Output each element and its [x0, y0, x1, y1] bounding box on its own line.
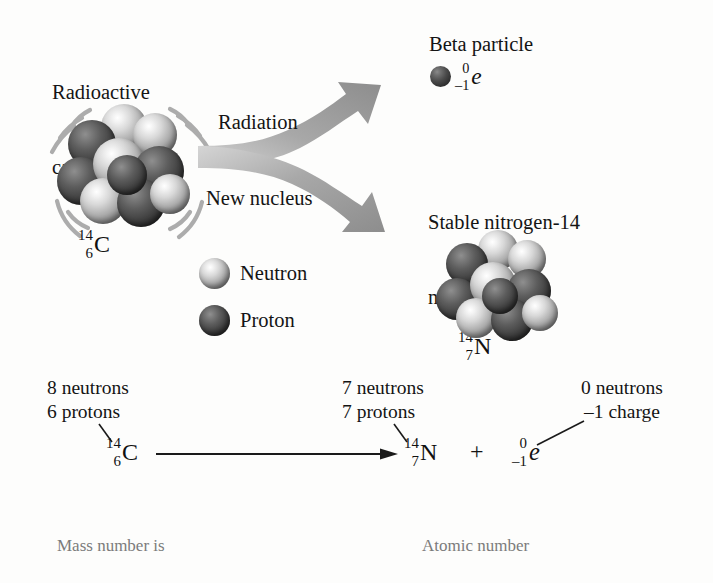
proton-sphere: [107, 155, 147, 195]
carbon-atomic-number-eq: 6: [113, 454, 120, 469]
beta-mass-number-eq: 0: [519, 436, 526, 451]
left-caption-line1: Mass number is: [57, 535, 165, 558]
nitrogen-14-nuclide-equation: 14 7 N: [404, 436, 437, 469]
reaction-arrow: [156, 443, 398, 465]
beta-charge-number-eq: –1: [512, 454, 527, 469]
beta-mass-number-top: 0: [462, 61, 469, 75]
diagram-canvas: Radioactive carbon nucleus 14 6 C: [0, 0, 713, 583]
neutron-sphere: [150, 174, 190, 214]
beta-particle-label: Beta particle: [429, 32, 533, 57]
beta-particle-nuclide-equation: 0 –1 e: [512, 436, 540, 469]
neutron-sphere: [522, 295, 558, 331]
carbon-14-nuclide-top: 14 6 C: [78, 228, 110, 261]
carbon-atomic-number-top: 6: [85, 246, 92, 261]
legend-label-proton: Proton: [240, 308, 295, 333]
nitrogen-atomic-number-eq: 7: [411, 454, 418, 469]
beta-symbol-eq: e: [528, 438, 540, 466]
carbon-14-nuclide-equation: 14 6 C: [106, 436, 138, 469]
reactant-neutron-count: 8 neutrons: [47, 376, 129, 400]
stable-nitrogen-nucleus: [434, 228, 562, 340]
carbon-symbol-top: C: [94, 231, 110, 258]
proton-sphere: [482, 278, 518, 314]
beta-symbol-top: e: [470, 63, 481, 90]
carbon-mass-number-top: 14: [78, 228, 93, 243]
decay-fork-arrows: [196, 80, 466, 240]
nitrogen-mass-number-eq: 14: [404, 436, 419, 451]
beta-charge-number-top: –1: [455, 78, 469, 92]
reactant-proton-count: 6 protons: [47, 400, 120, 424]
beta-particle-sphere: [430, 66, 451, 87]
carbon-mass-number-eq: 14: [106, 436, 121, 451]
legend-label-neutron: Neutron: [240, 261, 307, 286]
product-neutron-count: 7 neutrons: [342, 376, 424, 400]
beta-particle-nuclide-top: 0 –1 e: [455, 61, 482, 92]
product-proton-count: 7 protons: [342, 400, 415, 424]
beta-charge-count: –1 charge: [584, 400, 660, 424]
beta-neutron-count: 0 neutrons: [581, 376, 663, 400]
equation-plus-sign: +: [470, 437, 484, 466]
left-caption: Mass number is the same for both nuclei: [57, 489, 165, 583]
nitrogen-atomic-number-top: 7: [465, 348, 472, 363]
proton-swatch-icon: [199, 305, 230, 336]
neutron-swatch-icon: [199, 258, 230, 289]
nitrogen-symbol-eq: N: [420, 439, 437, 466]
right-caption-line1: Atomic number: [422, 535, 550, 558]
radioactive-carbon-nucleus: [55, 100, 205, 230]
radiation-label: Radiation: [218, 110, 298, 135]
right-caption: Atomic number of the new nucleus increas…: [422, 489, 550, 583]
new-nucleus-label: New nucleus: [206, 186, 312, 211]
carbon-symbol-eq: C: [122, 439, 138, 466]
